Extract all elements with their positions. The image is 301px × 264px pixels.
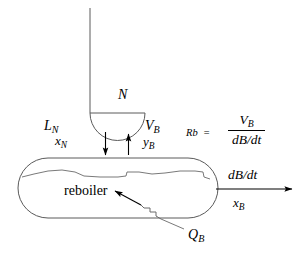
liquid-level-line bbox=[22, 170, 210, 179]
heat-duty-zigzag-icon bbox=[141, 205, 161, 219]
label-vapor-flow-subscript: B bbox=[154, 124, 160, 135]
column-bottom-head bbox=[90, 113, 145, 140]
label-vapor-composition-subscript: B bbox=[149, 141, 155, 151]
label-liquid-flow-symbol: L bbox=[44, 118, 52, 133]
reboiler-diagram: N LN xN VB yB reboiler QB dB/dt xB Rb = … bbox=[0, 0, 301, 264]
equation-fraction: VB dB/dt bbox=[228, 112, 265, 148]
equation-lhs: Rb bbox=[186, 128, 198, 139]
equation-numerator: VB bbox=[228, 112, 265, 130]
reboiler-vessel-outline bbox=[18, 158, 218, 218]
equation-numerator-symbol: V bbox=[240, 112, 248, 127]
label-vapor-flow-symbol: V bbox=[145, 118, 154, 133]
heat-duty-lead-line bbox=[161, 219, 184, 229]
equation-numerator-subscript: B bbox=[248, 118, 254, 129]
label-reboiler-vessel: reboiler bbox=[64, 184, 108, 198]
label-stage-n: N bbox=[118, 88, 127, 102]
label-vapor-composition: yB bbox=[143, 135, 155, 151]
label-bottoms-rate: dB/dt bbox=[228, 168, 257, 182]
label-bottoms-composition-subscript: B bbox=[239, 202, 245, 212]
label-vapor-flow: VB bbox=[145, 119, 160, 135]
label-heat-duty-symbol: Q bbox=[188, 227, 198, 242]
label-bottoms-composition: xB bbox=[233, 196, 245, 212]
equation-denominator: dB/dt bbox=[228, 131, 265, 148]
equation-equals-sign: = bbox=[203, 128, 210, 139]
heat-duty-arrow bbox=[115, 191, 141, 205]
label-heat-duty-subscript: B bbox=[198, 233, 204, 244]
label-liquid-composition-subscript: N bbox=[61, 140, 67, 150]
label-heat-duty: QB bbox=[188, 228, 204, 244]
label-liquid-composition: xN bbox=[55, 134, 67, 150]
